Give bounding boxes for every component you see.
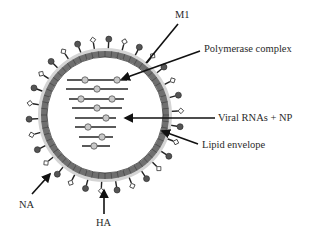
na-pointer-arrow xyxy=(32,174,50,194)
label-polymerase-complex: Polymerase complex xyxy=(204,44,292,55)
polymerase-bead xyxy=(114,77,120,83)
polymerase-bead xyxy=(94,105,100,111)
label-m1: M1 xyxy=(175,10,190,21)
polymerase-bead xyxy=(103,115,109,121)
polymerase-bead xyxy=(91,143,97,149)
label-viral-rnas-np: Viral RNAs + NP xyxy=(218,113,292,124)
polymerase-bead xyxy=(78,96,84,102)
label-ha: HA xyxy=(96,218,111,229)
m1-pointer-arrow xyxy=(146,24,178,63)
polymerase-bead xyxy=(82,77,88,83)
polymerase-bead xyxy=(94,86,100,92)
label-lipid-envelope: Lipid envelope xyxy=(202,140,265,151)
polymerase-bead xyxy=(85,124,91,130)
polymerase-bead xyxy=(109,96,115,102)
label-na: NA xyxy=(19,200,34,211)
polymerase-bead xyxy=(99,134,105,140)
